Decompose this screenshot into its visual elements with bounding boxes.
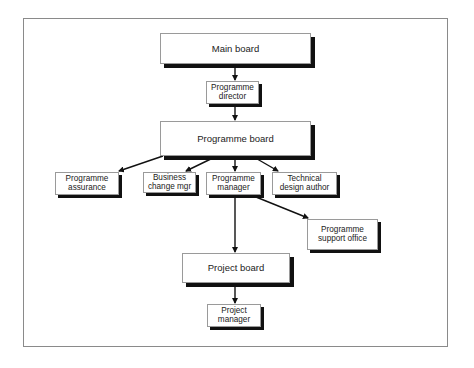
node-label: Programme support office [318,226,367,243]
node-programme-manager: Programme manager [206,172,261,195]
node-label: Programme director [211,84,254,101]
node-label: Programme manager [212,175,255,192]
node-label: Programme board [197,134,274,144]
node-programme-assurance: Programme assurance [55,172,119,195]
node-programme-director: Programme director [206,81,259,104]
node-label: Technical design author [280,175,330,192]
node-programme-board: Programme board [160,121,311,156]
node-programme-support-office: Programme support office [307,219,378,250]
node-label: Main board [212,44,260,54]
node-label: Project manager [218,307,250,324]
node-project-manager: Project manager [207,304,261,327]
node-technical-design-author: Technical design author [272,172,337,195]
node-main-board: Main board [160,33,311,64]
node-label: Programme assurance [66,175,109,192]
node-label: Business change mgr [148,174,191,191]
node-project-board: Project board [182,253,290,283]
node-label: Project board [208,263,265,273]
node-business-change-mgr: Business change mgr [143,172,196,193]
